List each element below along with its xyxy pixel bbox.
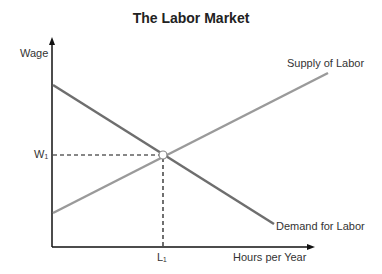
y-axis-label: Wage bbox=[20, 47, 48, 59]
x-axis-arrow-icon bbox=[307, 244, 315, 250]
chart-plot bbox=[0, 0, 382, 274]
demand-label: Demand for Labor bbox=[276, 220, 365, 232]
y-axis-arrow-icon bbox=[49, 37, 55, 45]
equilibrium-point bbox=[159, 151, 167, 159]
supply-label: Supply of Labor bbox=[287, 57, 364, 69]
supply-line bbox=[53, 73, 328, 213]
l1-label: L₁ bbox=[157, 251, 167, 263]
w1-label: W₁ bbox=[34, 148, 48, 160]
x-axis-label: Hours per Year bbox=[233, 251, 306, 263]
